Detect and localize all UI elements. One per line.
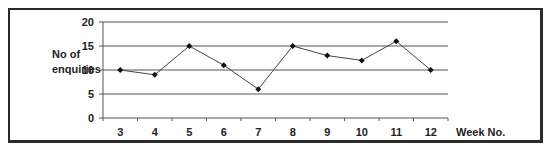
y-tick-label: 0 (88, 112, 94, 124)
axes (103, 22, 448, 121)
line-chart: 05101520 3456789101112 No of enquiries W… (0, 0, 548, 152)
x-tick-labels: 3456789101112 (117, 126, 437, 138)
y-axis-label-line1: No of (52, 48, 80, 60)
diamond-marker-icon (221, 62, 227, 68)
y-tick-label: 20 (82, 16, 94, 28)
x-tick-label: 5 (186, 126, 192, 138)
x-axis-label: Week No. (456, 126, 505, 138)
x-tick-label: 9 (324, 126, 330, 138)
x-tick-label: 10 (356, 126, 368, 138)
x-tick-label: 11 (390, 126, 402, 138)
x-tick-label: 6 (221, 126, 227, 138)
y-tick-label: 5 (88, 88, 94, 100)
diamond-marker-icon (117, 67, 123, 73)
x-tick-label: 3 (117, 126, 123, 138)
x-tick-label: 4 (152, 126, 159, 138)
x-tick-label: 7 (255, 126, 261, 138)
x-tick-label: 8 (290, 126, 296, 138)
diamond-marker-icon (359, 57, 365, 63)
y-axis-label-line2: enquiries (52, 63, 101, 75)
diamond-marker-icon (324, 53, 330, 59)
series-line (120, 41, 431, 89)
x-tick-label: 12 (425, 126, 437, 138)
y-tick-label: 15 (82, 40, 94, 52)
